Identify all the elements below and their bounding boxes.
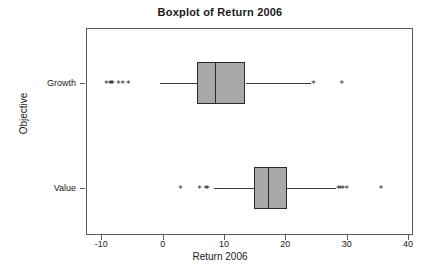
outlier-marker: * [126,80,131,89]
y-axis-title: Objective [18,69,29,159]
x-tick-label: 0 [160,239,165,249]
boxplot-chart: Boxplot of Return 2006 -10010203040Growt… [0,0,440,269]
x-tick-label: -10 [95,239,108,249]
x-tick-label: 40 [403,239,413,249]
median-growth [215,62,216,104]
whisker-high-growth [246,83,311,84]
outlier-marker: * [197,185,202,194]
box-value [254,167,287,209]
x-tick-label: 10 [219,239,229,249]
outlier-marker: * [121,80,126,89]
outlier-marker: * [379,185,384,194]
x-tick-label: 20 [280,239,290,249]
plot-area [86,28,413,235]
y-tick-label-growth: Growth [47,78,76,88]
y-tick-mark [80,83,85,84]
whisker-high-value [287,188,337,189]
chart-title: Boxplot of Return 2006 [0,6,440,18]
box-growth [197,62,245,104]
outlier-marker: * [344,185,349,194]
outlier-marker: * [205,185,210,194]
whisker-low-growth [160,83,197,84]
x-tick-label: 30 [342,239,352,249]
median-value [268,167,269,209]
y-tick-mark [80,188,85,189]
outlier-marker: * [311,80,316,89]
outlier-marker: * [110,80,115,89]
outlier-marker: * [340,80,345,89]
whisker-low-value [214,188,254,189]
x-axis-title: Return 2006 [0,251,440,262]
outlier-marker: * [178,185,183,194]
y-tick-label-value: Value [54,183,76,193]
